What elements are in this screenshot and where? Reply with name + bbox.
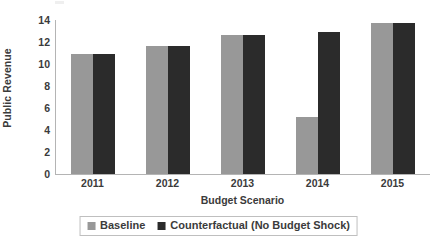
bar-chart-figure: Public Revenue 02468101214 2011201220132… (0, 0, 437, 246)
bar-group (146, 20, 190, 174)
legend-label: Baseline (100, 220, 145, 231)
legend-swatch-icon (157, 222, 165, 230)
bar-2012-counterfactual[interactable] (168, 46, 190, 174)
y-axis-title: Public Revenue (0, 0, 14, 175)
bars-layer (55, 20, 430, 174)
bar-group (296, 20, 340, 174)
y-axis-tick-label: 4 (44, 125, 50, 136)
legend-label: Counterfactual (No Budget Shock) (170, 220, 350, 231)
capture-artifact (55, 1, 64, 4)
bar-2013-counterfactual[interactable] (243, 35, 265, 174)
bar-group (71, 20, 115, 174)
x-axis-line (55, 174, 430, 175)
bar-2011-counterfactual[interactable] (93, 54, 115, 174)
x-axis-tick-label: 2011 (55, 177, 130, 190)
x-axis-tick-label: 2015 (355, 177, 430, 190)
y-axis-tick-label: 12 (38, 37, 50, 48)
y-axis-tick-label: 8 (44, 81, 50, 92)
bar-2011-baseline[interactable] (71, 54, 93, 174)
bar-2012-baseline[interactable] (146, 46, 168, 174)
bar-group (371, 20, 415, 174)
bar-2013-baseline[interactable] (221, 35, 243, 174)
legend-swatch-icon (87, 222, 95, 230)
x-axis-title: Budget Scenario (55, 194, 430, 206)
y-axis-tick-label: 2 (44, 147, 50, 158)
bar-2015-baseline[interactable] (371, 23, 393, 174)
y-axis-tick-label: 14 (38, 15, 50, 26)
y-axis-tick-label: 10 (38, 59, 50, 70)
legend-entry[interactable]: Counterfactual (No Budget Shock) (157, 220, 350, 231)
y-axis-tick-label: 0 (44, 169, 50, 180)
y-axis-title-label: Public Revenue (1, 48, 13, 128)
legend-entry[interactable]: Baseline (87, 220, 145, 231)
bar-2015-counterfactual[interactable] (393, 23, 415, 174)
bar-2014-counterfactual[interactable] (318, 32, 340, 174)
x-axis-tick-label: 2014 (280, 177, 355, 190)
bar-2014-baseline[interactable] (296, 117, 318, 174)
y-axis-tick-label: 6 (44, 103, 50, 114)
x-axis-tick-label: 2013 (205, 177, 280, 190)
x-axis-tick-label: 2012 (130, 177, 205, 190)
bar-group (221, 20, 265, 174)
x-axis-tick-labels: 20112012201320142015 (55, 177, 430, 193)
y-axis-tick-labels: 02468101214 (26, 15, 50, 174)
plot-area (55, 20, 430, 174)
chart-legend: BaselineCounterfactual (No Budget Shock) (79, 216, 358, 236)
